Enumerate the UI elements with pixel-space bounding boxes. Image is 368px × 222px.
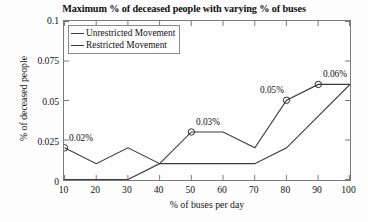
y-tick-2: 0.05 (42, 95, 59, 106)
chart-figure: Maximum % of deceased people with varyin… (0, 0, 368, 222)
y-tick-3: 0.075 (37, 55, 59, 66)
legend-label-restricted: Restricted Movement (86, 40, 167, 51)
x-tick-100: 100 (341, 184, 355, 195)
y-axis-tick-labels: 0 0.025 0.05 0.075 0.1 (14, 20, 59, 181)
x-tick-40: 40 (154, 184, 164, 195)
x-tick-90: 90 (312, 184, 322, 195)
x-tick-60: 60 (217, 184, 227, 195)
chart-title: Maximum % of deceased people with varyin… (0, 3, 368, 14)
annotation-0: 0.02% (69, 133, 93, 143)
y-tick-4: 0.1 (47, 15, 59, 26)
legend-item-restricted[interactable]: Restricted Movement (71, 39, 175, 51)
x-tick-30: 30 (122, 184, 132, 195)
legend-line-icon-restricted (71, 45, 84, 46)
x-tick-70: 70 (249, 184, 259, 195)
x-tick-20: 20 (90, 184, 100, 195)
legend-item-unrestricted[interactable]: Unrestricted Movement (71, 27, 175, 39)
y-tick-1: 0.025 (37, 135, 59, 146)
legend-label-unrestricted: Unrestricted Movement (86, 28, 175, 39)
annotation-2: 0.05% (260, 85, 284, 95)
annotation-3: 0.06% (323, 69, 347, 79)
x-axis-tick-labels: 10 20 30 40 50 60 70 80 90 100 (63, 184, 351, 198)
x-tick-50: 50 (186, 184, 196, 195)
annotation-1: 0.03% (196, 117, 220, 127)
x-tick-10: 10 (59, 184, 69, 195)
x-axis-label: % of buses per day (63, 199, 351, 210)
chart-legend[interactable]: Unrestricted Movement Restricted Movemen… (68, 25, 180, 54)
x-tick-80: 80 (281, 184, 291, 195)
legend-line-icon-unrestricted (71, 33, 84, 34)
